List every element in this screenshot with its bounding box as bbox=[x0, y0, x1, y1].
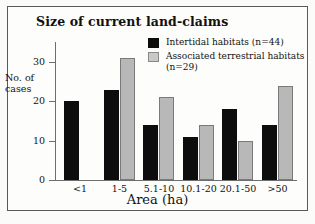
bar-terrestrial bbox=[238, 141, 253, 180]
legend: Intertidal habitats (n=44) Associated te… bbox=[148, 37, 315, 76]
bar-intertidal bbox=[104, 90, 119, 180]
legend-item-terrestrial: Associated terrestrial habitats (n=29) bbox=[148, 51, 315, 73]
chart-title: Size of current land-claims bbox=[36, 14, 228, 29]
bar-intertidal bbox=[262, 125, 277, 180]
bar-group bbox=[104, 42, 136, 180]
bar-terrestrial bbox=[120, 58, 135, 180]
bar-group bbox=[64, 42, 96, 180]
y-tick-mark bbox=[49, 180, 55, 181]
bar-intertidal bbox=[183, 137, 198, 180]
legend-swatch-icon-intertidal bbox=[148, 38, 159, 48]
bar-terrestrial bbox=[278, 86, 293, 180]
bar-terrestrial bbox=[159, 97, 174, 180]
figure-root: Size of current land-claims 0102030 No. … bbox=[0, 0, 315, 224]
y-tick-label: 0 bbox=[39, 174, 45, 185]
y-tick-label: 10 bbox=[33, 135, 45, 146]
legend-swatch-icon-terrestrial bbox=[148, 52, 159, 62]
x-axis-label: Area (ha) bbox=[0, 192, 315, 207]
x-axis-line bbox=[55, 180, 297, 181]
y-tick-label: 30 bbox=[33, 56, 45, 67]
y-axis-label: No. of cases bbox=[5, 72, 49, 94]
legend-label-terrestrial: Associated terrestrial habitats (n=29) bbox=[166, 51, 315, 73]
legend-label-intertidal: Intertidal habitats (n=44) bbox=[166, 37, 284, 48]
y-tick-0: 0 bbox=[49, 180, 55, 181]
bar-intertidal bbox=[64, 101, 79, 180]
bar-terrestrial bbox=[199, 125, 214, 180]
y-tick-label: 20 bbox=[33, 95, 45, 106]
bar-intertidal bbox=[222, 109, 237, 180]
legend-item-intertidal: Intertidal habitats (n=44) bbox=[148, 37, 315, 48]
bar-intertidal bbox=[143, 125, 158, 180]
